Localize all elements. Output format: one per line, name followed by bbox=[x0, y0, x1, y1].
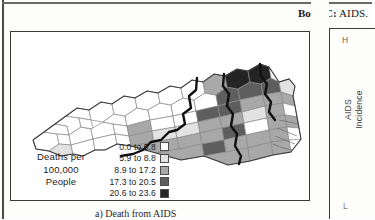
legend-swatch-class-5 bbox=[160, 189, 169, 198]
legend-item: 17.3 to 20.5 bbox=[105, 176, 169, 188]
map-frame: Deaths per 100,000 People 0.0 to 5.8 5.9… bbox=[10, 31, 310, 201]
legend-item-label: 8.9 to 17.2 bbox=[105, 165, 156, 175]
legend-item-label: 0.0 to 5.8 bbox=[105, 142, 156, 152]
legend-item: 5.9 to 8.8 bbox=[105, 153, 169, 165]
legend-title: Deaths per 100,000 People bbox=[23, 151, 99, 188]
legend-item-label: 5.9 to 8.8 bbox=[105, 153, 156, 163]
legend-item-label: 20.6 to 23.6 bbox=[105, 188, 156, 198]
box-heading-text: AIDS. bbox=[337, 7, 368, 19]
aids-incidence-panel: H AIDS Incidence L bbox=[329, 28, 375, 219]
legend-class-list: 0.0 to 5.8 5.9 to 8.8 8.9 to 17.2 17.3 t… bbox=[105, 141, 169, 199]
panel-gutter bbox=[311, 0, 329, 219]
panel-low-label: L bbox=[343, 201, 348, 211]
panel-axis-label-line2: Incidence bbox=[353, 55, 364, 165]
panel-axis-label: AIDS Incidence bbox=[343, 55, 364, 165]
legend-swatch-class-1 bbox=[160, 142, 169, 151]
box-heading: Box 7C: AIDS. bbox=[298, 7, 368, 19]
legend-item-label: 17.3 to 20.5 bbox=[105, 177, 156, 187]
legend-title-line3: People bbox=[23, 176, 99, 188]
legend-item: 20.6 to 23.6 bbox=[105, 187, 169, 199]
page-border-left bbox=[2, 0, 4, 219]
legend-swatch-class-2 bbox=[160, 154, 169, 163]
panel-high-label: H bbox=[342, 35, 348, 45]
legend-swatch-class-4 bbox=[160, 177, 169, 186]
legend-title-line1: Deaths per bbox=[23, 151, 99, 163]
map-caption: a) Death from AIDS bbox=[95, 208, 176, 219]
panel-axis-label-line1: AIDS bbox=[343, 55, 354, 165]
legend-title-line2: 100,000 bbox=[23, 164, 99, 176]
legend-item: 8.9 to 17.2 bbox=[105, 164, 169, 176]
legend-item: 0.0 to 5.8 bbox=[105, 141, 169, 153]
map-legend: Deaths per 100,000 People 0.0 to 5.8 5.9… bbox=[23, 140, 183, 200]
legend-swatch-class-3 bbox=[160, 166, 169, 175]
